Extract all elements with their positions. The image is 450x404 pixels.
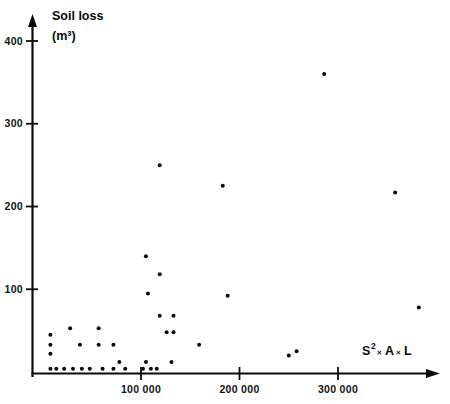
data-point — [226, 294, 230, 298]
data-point — [295, 349, 299, 353]
data-point — [48, 343, 52, 347]
data-point — [97, 326, 101, 330]
data-point — [158, 272, 162, 276]
data-point — [197, 343, 201, 347]
x-tick-label: 300 000 — [318, 383, 358, 395]
data-point — [158, 314, 162, 318]
data-point — [417, 305, 421, 309]
y-tick-label: 300 — [5, 117, 23, 129]
data-point — [165, 330, 169, 334]
data-point — [141, 367, 145, 371]
data-point — [78, 343, 82, 347]
y-tick-label: 100 — [5, 283, 23, 295]
data-point — [48, 352, 52, 356]
data-point — [97, 343, 101, 347]
x-axis-ticks: 100 000200 000300 000 — [121, 367, 358, 395]
data-point — [48, 333, 52, 337]
x-axis-arrow-icon — [426, 369, 440, 378]
x-tick-label: 200 000 — [219, 383, 259, 395]
data-point — [158, 163, 162, 167]
data-point — [111, 343, 115, 347]
x-axis-title: S 2 × A × L — [362, 341, 412, 358]
data-point — [62, 367, 66, 371]
data-point — [155, 367, 159, 371]
data-point — [123, 367, 127, 371]
y-axis-arrow-icon — [28, 14, 37, 27]
data-point — [170, 360, 174, 364]
data-point — [101, 367, 105, 371]
data-point — [287, 353, 291, 357]
data-point — [172, 314, 176, 318]
data-point — [68, 326, 72, 330]
data-point — [111, 367, 115, 371]
data-points-layer — [48, 72, 420, 371]
x-axis-title-s: S — [362, 344, 370, 358]
plot-canvas: Soil loss (m³) S 2 × A × L 100200300400 … — [0, 0, 450, 404]
y-tick-label: 200 — [5, 200, 23, 212]
y-axis-title-line1: Soil loss — [52, 9, 103, 23]
data-point — [322, 72, 326, 76]
y-axis-title-line2: (m³) — [52, 29, 76, 43]
x-axis-title-multiply-2: × — [396, 348, 401, 357]
data-point — [54, 367, 58, 371]
scatter-chart-figure: Soil loss (m³) S 2 × A × L 100200300400 … — [0, 0, 450, 404]
data-point — [48, 367, 52, 371]
data-point — [221, 184, 225, 188]
data-point — [80, 367, 84, 371]
x-axis-title-a: A — [385, 344, 394, 358]
data-point — [172, 330, 176, 334]
y-tick-label: 400 — [5, 35, 23, 47]
x-axis-title-exponent: 2 — [371, 341, 376, 351]
data-point — [146, 291, 150, 295]
x-axis-title-l: L — [404, 344, 412, 358]
data-point — [393, 190, 397, 194]
data-point — [149, 367, 153, 371]
data-point — [88, 367, 92, 371]
data-point — [144, 360, 148, 364]
x-axis-title-multiply-1: × — [377, 348, 382, 357]
data-point — [71, 367, 75, 371]
x-tick-label: 100 000 — [121, 383, 161, 395]
data-point — [144, 254, 148, 258]
data-point — [117, 360, 121, 364]
